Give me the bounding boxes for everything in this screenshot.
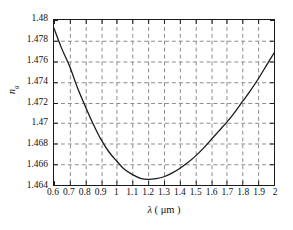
x-axis-tick-label: 1.4: [174, 188, 186, 198]
x-axis-tick-label: 1.1: [126, 188, 138, 198]
y-axis-title-symbol: n: [6, 89, 17, 94]
x-axis-tick-label: 1.6: [206, 188, 218, 198]
x-axis-tick-label: 1.7: [221, 188, 233, 198]
y-axis-title: ng: [6, 86, 20, 95]
y-axis-tick-label: 1.47: [31, 119, 48, 129]
x-axis-tick-label: 1.8: [237, 188, 249, 198]
y-axis-tick-label: 1.468: [27, 140, 48, 150]
data-curve-layer: [54, 20, 274, 185]
x-axis-title-units: ( μm ): [155, 204, 181, 215]
x-axis-tick-label: 2: [273, 188, 278, 198]
x-axis-tick-label: 0.9: [95, 188, 107, 198]
x-axis-tick-label: 1.2: [142, 188, 154, 198]
x-axis-tick-label: 1: [114, 188, 119, 198]
y-axis-tick-label: 1.466: [27, 160, 48, 170]
y-axis-tick-label: 1.472: [27, 98, 48, 108]
x-axis-tick-label: 1.9: [253, 188, 265, 198]
data-series-line: [54, 28, 274, 179]
figure-container: 1.4641.4661.4681.471.4721.4741.4761.4781…: [0, 0, 293, 230]
x-axis-tick-label: 0.7: [63, 188, 75, 198]
x-axis-title-symbol: λ: [147, 204, 152, 215]
x-axis-tick-label: 1.5: [190, 188, 202, 198]
y-axis-tick-label: 1.48: [31, 14, 48, 24]
y-axis-tick-label: 1.464: [27, 181, 48, 191]
y-axis-tick-label: 1.478: [27, 35, 48, 45]
x-axis-tick-label: 0.8: [79, 188, 91, 198]
y-axis-tick-label: 1.474: [27, 77, 48, 87]
y-axis-title-subscript: g: [12, 86, 20, 90]
x-axis-tick-label: 1.3: [158, 188, 170, 198]
x-axis-title: λ ( μm ): [53, 204, 275, 215]
x-axis-tick-label: 0.6: [47, 188, 59, 198]
x-axis-tick-labels: 0.60.70.80.911.11.21.31.41.51.61.71.81.9…: [53, 188, 275, 202]
plot-area: [53, 19, 275, 186]
y-axis-tick-labels: 1.4641.4661.4681.471.4721.4741.4761.4781…: [0, 19, 48, 186]
y-axis-tick-label: 1.476: [27, 56, 48, 66]
